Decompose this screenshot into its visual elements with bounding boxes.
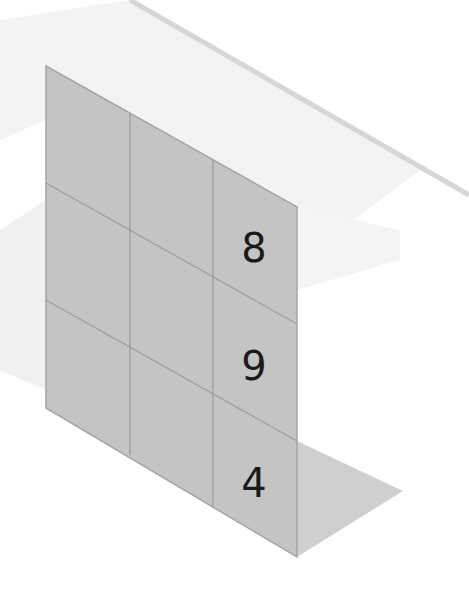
cell-r1-c3: 8 bbox=[241, 225, 266, 271]
cell-r2-c3: 9 bbox=[241, 343, 266, 389]
ghost-shadow-right bbox=[297, 207, 400, 290]
isometric-grid-scene: 8 9 4 bbox=[0, 0, 469, 595]
floor-shadow bbox=[297, 441, 403, 557]
ghost-shadow-lower bbox=[0, 200, 46, 390]
cell-r3-c3: 4 bbox=[241, 460, 266, 506]
